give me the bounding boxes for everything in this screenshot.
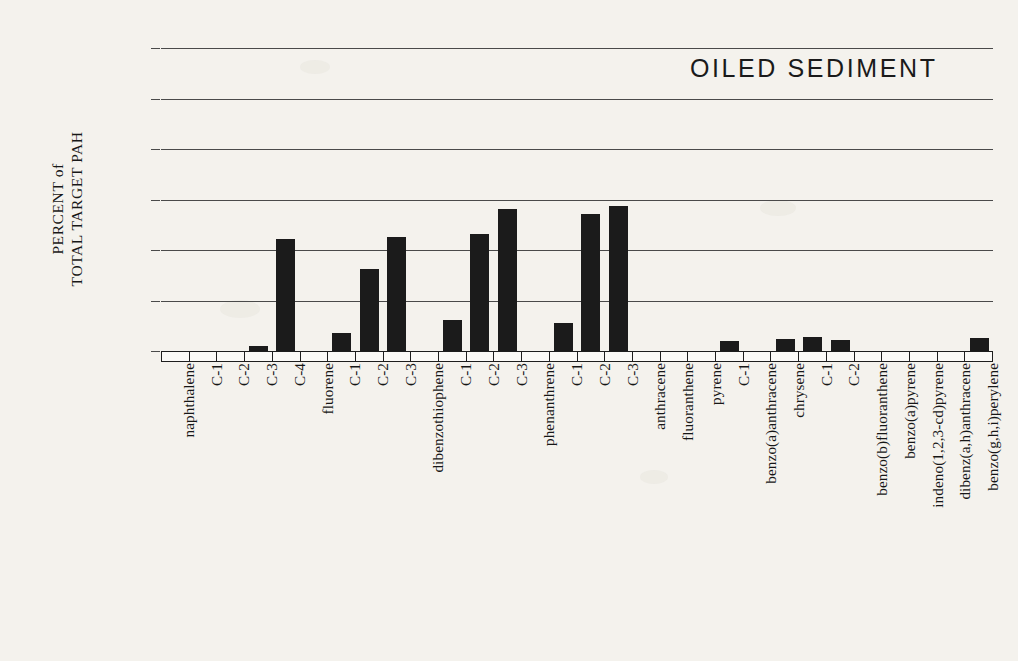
x-axis-label-slot: phenanthrene xyxy=(522,363,550,623)
x-axis-label-slot: dibenzothiophene xyxy=(411,363,439,623)
bar-slot xyxy=(189,48,217,351)
x-axis-label-slot: benzo(g,h,i)perylene xyxy=(965,363,993,623)
bar-slot xyxy=(466,48,494,351)
bar-slot xyxy=(660,48,688,351)
x-axis-label-slot: C-2 xyxy=(355,363,383,623)
bar[interactable] xyxy=(443,320,462,351)
bar-slot xyxy=(577,48,605,351)
bar[interactable] xyxy=(803,337,822,351)
x-axis-tick-cell xyxy=(965,352,992,361)
bar-slot xyxy=(327,48,355,351)
x-axis-tick-cell xyxy=(633,352,661,361)
plot-area: 302520151050 xyxy=(161,48,993,351)
y-axis-tick-mark xyxy=(151,48,160,49)
x-axis-tick-cell xyxy=(661,352,689,361)
bar-slot xyxy=(605,48,633,351)
bar-slot xyxy=(494,48,522,351)
x-axis-label-slot: naphthalene xyxy=(161,363,189,623)
x-axis-label-slot: dibenz(a,h)anthracene xyxy=(938,363,966,623)
x-axis-label-slot: C-2 xyxy=(577,363,605,623)
x-axis-tick-cell xyxy=(467,352,495,361)
bar-slot xyxy=(716,48,744,351)
bar[interactable] xyxy=(387,237,406,351)
bar[interactable] xyxy=(276,239,295,351)
x-axis-tick-cell xyxy=(301,352,329,361)
x-axis-label-slot: C-1 xyxy=(716,363,744,623)
bar[interactable] xyxy=(831,340,850,351)
x-axis-label-slot: C-1 xyxy=(799,363,827,623)
x-axis-labels-group: naphthaleneC-1C-2C-3C-4fluoreneC-1C-2C-3… xyxy=(161,363,993,623)
bar-slot xyxy=(965,48,993,351)
x-axis-tick-cell xyxy=(245,352,273,361)
x-axis-label-slot: pyrene xyxy=(688,363,716,623)
bar-slot xyxy=(882,48,910,351)
x-axis-tick-cell xyxy=(855,352,883,361)
x-axis-label-slot: C-2 xyxy=(827,363,855,623)
x-axis-tick-cell xyxy=(771,352,799,361)
bar-slot xyxy=(383,48,411,351)
bar-slot xyxy=(549,48,577,351)
y-axis-title-line1: PERCENT of xyxy=(49,79,68,339)
x-axis-tick-label: benzo(g,h,i)perylene xyxy=(984,363,1002,491)
y-axis-tick-mark xyxy=(151,200,160,201)
x-axis-tick-cell xyxy=(356,352,384,361)
x-axis-label-slot: C-3 xyxy=(494,363,522,623)
y-axis-tick-mark xyxy=(151,149,160,150)
x-axis-tick-cell xyxy=(744,352,772,361)
x-axis-label-slot: C-3 xyxy=(244,363,272,623)
bar[interactable] xyxy=(332,333,351,351)
bar-slot xyxy=(411,48,439,351)
x-axis-tick-cell xyxy=(162,352,190,361)
x-axis-label-slot: C-1 xyxy=(549,363,577,623)
y-axis-tick-mark xyxy=(151,301,160,302)
bar[interactable] xyxy=(970,338,989,351)
x-axis-label-slot: benzo(a)anthracene xyxy=(743,363,771,623)
x-axis-tick-cell xyxy=(439,352,467,361)
bar[interactable] xyxy=(609,206,628,351)
x-axis-tick-cell xyxy=(688,352,716,361)
bar-slot xyxy=(632,48,660,351)
bar-slot xyxy=(827,48,855,351)
x-axis-tick-cell xyxy=(882,352,910,361)
x-axis-label-slot: benzo(b)fluoranthene xyxy=(854,363,882,623)
bar-slot xyxy=(854,48,882,351)
bar[interactable] xyxy=(470,234,489,351)
x-axis-label-slot: indeno(1,2,3-cd)pyrene xyxy=(910,363,938,623)
x-axis-tick-cell xyxy=(217,352,245,361)
x-axis-label-slot: C-1 xyxy=(189,363,217,623)
bar[interactable] xyxy=(720,341,739,351)
bar[interactable] xyxy=(776,339,795,351)
x-axis-tick-cell xyxy=(328,352,356,361)
bar[interactable] xyxy=(360,269,379,351)
bar-slot xyxy=(244,48,272,351)
chart-page: PERCENT of TOTAL TARGET PAH OILED SEDIME… xyxy=(0,0,1018,661)
bar-slot xyxy=(272,48,300,351)
x-axis-tick-cell xyxy=(605,352,633,361)
x-axis-tick-cell xyxy=(938,352,966,361)
bar-slot xyxy=(300,48,328,351)
x-axis-label-slot: C-2 xyxy=(466,363,494,623)
x-axis-label-slot: fluoranthene xyxy=(660,363,688,623)
x-axis-label-slot: C-1 xyxy=(327,363,355,623)
bar-slot xyxy=(910,48,938,351)
x-axis-label-slot: C-4 xyxy=(272,363,300,623)
x-axis-label-slot: C-3 xyxy=(605,363,633,623)
bar[interactable] xyxy=(554,323,573,351)
x-axis-tick-cell xyxy=(522,352,550,361)
x-axis-tick-cell xyxy=(827,352,855,361)
bar-slot xyxy=(771,48,799,351)
x-axis-tick-cell xyxy=(799,352,827,361)
bar[interactable] xyxy=(498,209,517,351)
bar-slot xyxy=(688,48,716,351)
x-axis-label-slot: fluorene xyxy=(300,363,328,623)
bar[interactable] xyxy=(581,214,600,351)
bar-slot xyxy=(161,48,189,351)
y-axis-tick-mark xyxy=(151,250,160,251)
x-axis-tick-cell xyxy=(190,352,218,361)
x-axis-tick-cell xyxy=(578,352,606,361)
x-axis-label-slot: C-1 xyxy=(438,363,466,623)
x-axis-label-slot: C-3 xyxy=(383,363,411,623)
bar-slot xyxy=(355,48,383,351)
x-axis-tick-cell xyxy=(716,352,744,361)
x-axis-label-slot: C-2 xyxy=(216,363,244,623)
